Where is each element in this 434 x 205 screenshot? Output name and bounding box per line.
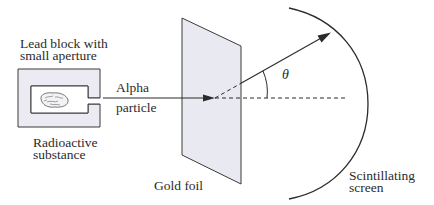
- alpha-particle-label-line1: Alpha: [116, 81, 149, 94]
- angle-theta-label: θ: [282, 67, 289, 83]
- lead-block-label-line2: small aperture: [20, 49, 97, 62]
- radioactive-substance-label-line2: substance: [33, 148, 85, 161]
- gold-foil: [182, 18, 241, 184]
- alpha-particle-label-line2: particle: [116, 101, 156, 114]
- scintillating-screen-label-line2: screen: [349, 181, 383, 194]
- radioactive-substance-icon: [41, 93, 68, 107]
- gold-foil-label: Gold foil: [154, 179, 203, 192]
- scattered-arrowhead-icon: [318, 33, 332, 43]
- angle-arc: [263, 71, 267, 98]
